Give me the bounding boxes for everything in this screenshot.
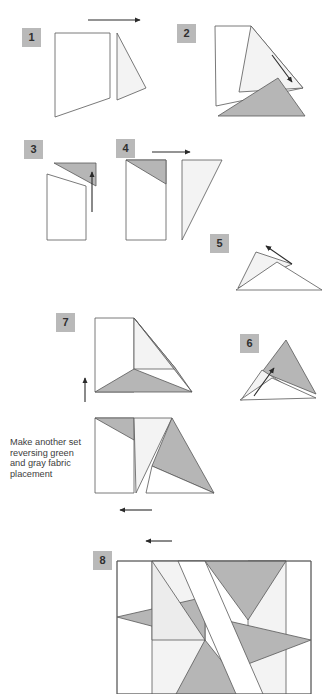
note-line-1: Make another set xyxy=(10,437,81,447)
step-8-number: 8 xyxy=(99,554,105,566)
note-line-4: placement xyxy=(10,469,53,479)
piece-white-quad xyxy=(47,174,86,240)
step-1-badge: 1 xyxy=(22,28,41,47)
step-6-badge: 6 xyxy=(240,334,259,353)
step-5-number: 5 xyxy=(216,237,222,249)
note-line-3: and gray fabric xyxy=(10,458,71,468)
step-4-number: 4 xyxy=(122,142,129,154)
step-1-number: 1 xyxy=(28,31,34,43)
quilt-assembly-diagram: 1 2 3 4 5 xyxy=(0,0,334,694)
step-7-number: 7 xyxy=(62,316,68,328)
step-3-number: 3 xyxy=(30,143,36,155)
step-2-badge: 2 xyxy=(177,24,196,43)
note-line-2: reversing green xyxy=(10,448,74,458)
step-3-badge: 3 xyxy=(24,140,43,159)
step-6-number: 6 xyxy=(246,337,252,349)
step-4-badge: 4 xyxy=(116,139,135,158)
step-5-badge: 5 xyxy=(210,234,229,253)
step-2-number: 2 xyxy=(183,27,189,39)
diagram-canvas: 1 2 3 4 5 xyxy=(0,0,334,694)
step-8-badge: 8 xyxy=(93,551,112,570)
step-7-badge: 7 xyxy=(56,313,75,332)
step-8-illustration xyxy=(117,561,311,694)
